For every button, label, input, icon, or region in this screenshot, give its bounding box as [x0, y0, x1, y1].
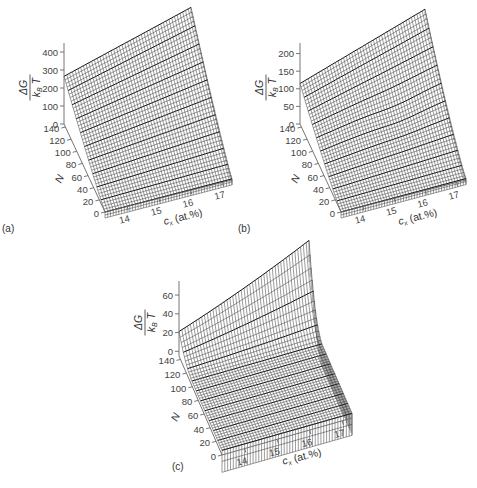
svg-text:ΔG: ΔG [253, 80, 265, 96]
z-tick: 200 [42, 83, 58, 94]
n-tick: 60 [188, 410, 199, 421]
z-tick: 40 [162, 308, 173, 319]
n-tick: 0 [330, 208, 335, 219]
n-tick: 40 [313, 184, 324, 195]
c-tick: 17 [333, 427, 346, 440]
c-tick: 17 [213, 188, 226, 201]
panel-label: (a) [2, 223, 14, 234]
svg-text:ΔG: ΔG [132, 315, 144, 331]
z-axis-label: ΔGkB T [253, 75, 279, 101]
n-tick: 60 [307, 172, 318, 183]
z-tick: 60 [162, 290, 173, 301]
svg-text:ΔG: ΔG [17, 80, 29, 96]
z-tick: 400 [42, 47, 58, 58]
z-tick: 150 [278, 66, 294, 77]
n-tick: 80 [182, 396, 193, 407]
z-tick: 200 [278, 48, 294, 59]
z-tick: 50 [283, 101, 294, 112]
n-tick: 0 [94, 208, 99, 219]
axis-labels: 010020030040002040608010012014014151617Δ… [2, 47, 460, 473]
c-tick: 15 [150, 204, 163, 217]
svg-text:kB T: kB T [145, 311, 158, 332]
n-tick: 20 [199, 437, 210, 448]
n-tick: 80 [66, 159, 77, 170]
svg-text:kB T: kB T [266, 76, 279, 97]
n-tick: 120 [165, 369, 181, 380]
panel-b [300, 9, 466, 218]
n-tick: 100 [55, 147, 71, 158]
n-tick: 100 [170, 383, 186, 394]
n-tick: 120 [285, 135, 301, 146]
z-axis-label: ΔGkB T [17, 75, 43, 101]
n-axis-label: N [288, 172, 302, 184]
n-tick: 40 [194, 424, 205, 435]
c-tick: 14 [354, 212, 367, 225]
z-tick: 300 [42, 65, 58, 76]
panel-label: (c) [172, 461, 184, 472]
z-tick: 100 [278, 83, 294, 94]
n-tick: 40 [77, 184, 88, 195]
n-tick: 100 [291, 147, 307, 158]
svg-text:kB T: kB T [30, 76, 43, 97]
axis-labels-b: 05010015020002040608010012014014151617ΔG… [253, 48, 460, 228]
panel-label: (b) [238, 223, 250, 234]
z-tick: 20 [162, 327, 173, 338]
c-tick: 15 [268, 445, 281, 458]
c-tick: 14 [235, 455, 248, 468]
n-tick: 20 [319, 196, 330, 207]
z-axis-label: ΔGkB T [132, 310, 158, 336]
figure-canvas: 010020030040002040608010012014014151617Δ… [0, 0, 477, 488]
panel-a [64, 7, 232, 218]
n-tick: 120 [49, 135, 65, 146]
n-tick: 140 [44, 123, 60, 134]
c-tick: 17 [447, 188, 460, 201]
n-tick: 60 [71, 172, 82, 183]
n-tick: 80 [302, 159, 313, 170]
c-tick: 15 [385, 204, 398, 217]
n-tick: 140 [280, 123, 296, 134]
n-tick: 20 [83, 196, 94, 207]
z-tick: 100 [42, 101, 58, 112]
c-tick: 14 [118, 212, 131, 225]
n-axis-label: N [52, 172, 66, 184]
c-axis-b [341, 180, 466, 212]
n-tick: 0 [211, 451, 216, 462]
n-axis-label: N [168, 410, 182, 422]
n-tick: 140 [159, 355, 175, 366]
